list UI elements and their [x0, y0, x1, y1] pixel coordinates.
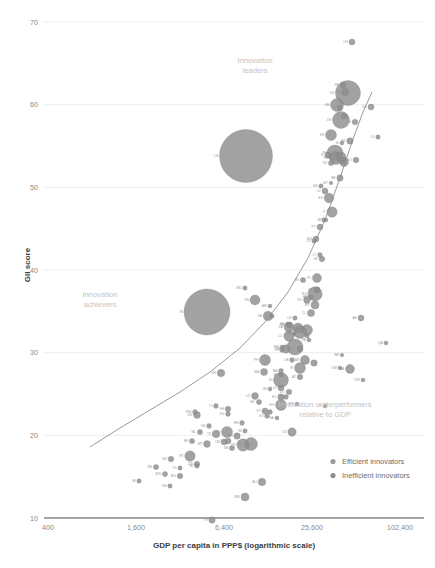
legend-label[interactable]: Efficient innovators: [342, 457, 405, 466]
bubble-label: DZ: [282, 430, 286, 434]
bubble-marker: [185, 451, 195, 461]
data-point: KH: [219, 406, 230, 412]
data-point: NP: [198, 441, 211, 448]
bubble-label: MZ: [162, 457, 167, 461]
bubble-label: DE: [327, 118, 332, 122]
bubble-label: OM: [331, 366, 337, 370]
bubble-label: PH: [254, 358, 259, 362]
y-tick-label: 10: [30, 514, 38, 523]
bubble-label: AL: [274, 373, 278, 377]
bubble-label: AZ: [292, 375, 296, 379]
data-point: HN: [234, 421, 245, 426]
bubble-marker: [341, 113, 347, 119]
bubble-marker: [177, 473, 183, 479]
bubble-label: SG: [362, 105, 367, 109]
legend-marker[interactable]: [330, 473, 335, 478]
bubble-label: LB: [284, 358, 289, 362]
bubble-label: GB: [325, 103, 331, 107]
bubble-label: NE: [148, 465, 153, 469]
bubble-marker: [376, 135, 380, 139]
bubble-label: CL: [302, 311, 306, 315]
bubble-marker: [268, 410, 273, 415]
bubble-marker: [162, 471, 167, 476]
x-tick-label: 25,600: [301, 523, 323, 532]
bubble-marker: [221, 439, 227, 445]
bubble-label: UA: [257, 314, 262, 318]
data-point: KR: [320, 130, 337, 141]
bubble-marker: [340, 158, 349, 167]
data-point: VN: [244, 295, 260, 305]
bubble-label: MM: [234, 495, 240, 499]
bubble-label: KZ: [305, 361, 309, 365]
annotations-group: InnovationleadersInnovationachieversInno…: [82, 56, 371, 419]
bubble-marker: [184, 289, 230, 335]
bubble-label: NL: [336, 90, 340, 94]
bubble-marker: [327, 207, 337, 217]
bubble-marker: [368, 104, 374, 110]
bubble-label: GT: [256, 409, 261, 413]
bubble-label: KE: [212, 371, 217, 375]
bubble-marker: [261, 369, 268, 376]
bubble-marker: [307, 338, 311, 342]
data-point: NI: [238, 429, 247, 433]
bubble-marker: [288, 428, 296, 436]
bubble-label: ET: [179, 454, 183, 458]
data-point: MT: [323, 181, 333, 185]
data-point: NE: [148, 464, 159, 469]
bubble-marker: [234, 433, 240, 439]
legend-label[interactable]: Inefficient innovators: [342, 471, 410, 480]
data-point: AO: [252, 478, 266, 486]
bubble-marker: [214, 404, 219, 409]
bubble-label: GE: [264, 314, 270, 318]
bubble-label: EC: [272, 395, 277, 399]
data-point: IN: [179, 289, 230, 335]
bubble-label: IL: [321, 153, 324, 157]
data-point: MM: [234, 493, 249, 501]
bubble-marker: [241, 493, 249, 501]
bubble-marker: [307, 309, 314, 316]
data-point: KW: [354, 378, 365, 382]
bubble-marker: [286, 322, 290, 326]
bubble-label: AO: [252, 480, 257, 484]
bubble-label: TN: [274, 348, 279, 352]
data-point: MG: [171, 473, 183, 479]
bubble-label: LK: [273, 386, 278, 390]
data-point: MZ: [162, 456, 174, 462]
bubble-marker: [384, 341, 388, 345]
x-axis-tick-labels: 4001,6006,40025,600102,400: [42, 523, 413, 532]
bubble-marker: [178, 466, 182, 470]
data-point: UZ: [246, 393, 258, 400]
bubble-marker: [217, 369, 225, 377]
data-point: AM: [262, 304, 272, 308]
bubble-marker: [197, 429, 202, 434]
bubble-label: LU: [370, 135, 375, 139]
bubble-marker: [250, 295, 260, 305]
bubble-label: SV: [259, 414, 264, 418]
bubble-marker: [340, 353, 344, 357]
bubble-label: BH: [334, 353, 339, 357]
bubble-marker: [268, 387, 272, 391]
bubble-label: ML: [192, 430, 197, 434]
bubble-marker: [324, 218, 328, 222]
bubble-marker: [260, 355, 271, 366]
bubble-label: MT: [323, 181, 328, 185]
bubble-marker: [204, 441, 211, 448]
bubble-marker: [275, 416, 279, 420]
bubble-label: KH: [219, 407, 224, 411]
data-point: MA: [254, 369, 267, 376]
bubble-label: YE: [203, 518, 208, 522]
bubble-label: BE: [331, 176, 336, 180]
data-point: LB: [284, 358, 294, 363]
bubble-label: IR: [290, 366, 294, 370]
data-point: IT: [323, 207, 338, 217]
data-point: PH: [254, 355, 271, 366]
legend-marker[interactable]: [330, 459, 335, 464]
data-point: IR: [290, 363, 306, 374]
bubble-marker: [189, 438, 194, 443]
bubble-label: TZ: [207, 432, 211, 436]
bubble-label: CY: [318, 218, 323, 222]
bubble-label: MW: [155, 472, 162, 476]
bubble-label: BF: [184, 439, 188, 443]
bubble-marker: [243, 429, 247, 433]
bubble-marker: [258, 478, 266, 486]
